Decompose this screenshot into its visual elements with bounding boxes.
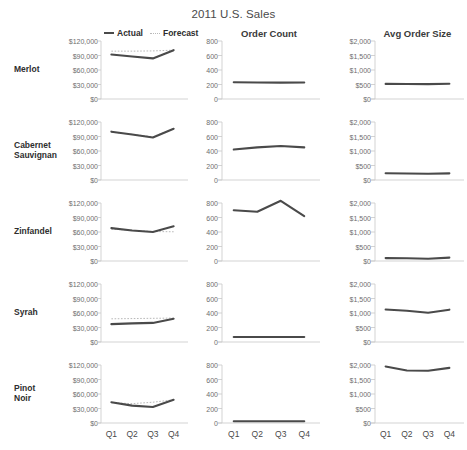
y-tick-label: 200 (196, 162, 218, 169)
x-tick-label: Q4 (162, 429, 186, 439)
y-tick-label: $1,500 (331, 295, 371, 302)
y-tick-label: $0 (46, 420, 98, 427)
x-tick-label: Q4 (437, 429, 461, 439)
x-tick-label: Q3 (269, 429, 293, 439)
y-tick-label: 600 (196, 52, 218, 59)
y-tick-label: $0 (331, 177, 371, 184)
y-tick-label: $30,000 (46, 243, 98, 250)
y-tick-label: $0 (331, 258, 371, 265)
column-title-order-count: Order Count (222, 28, 316, 39)
y-tick-label: $1,000 (331, 148, 371, 155)
legend-line-actual-icon (104, 32, 114, 34)
x-tick-label: Q4 (292, 429, 316, 439)
x-tick-label: Q1 (222, 429, 246, 439)
y-tick-label: $90,000 (46, 295, 98, 302)
y-tick-label: 800 (196, 362, 218, 369)
y-tick-label: $120,000 (46, 38, 98, 45)
y-tick-label: $500 (331, 405, 371, 412)
y-tick-label: $1,500 (331, 133, 371, 140)
chart-legend: Actual Forecast (104, 28, 198, 38)
legend-item-forecast: Forecast (150, 28, 198, 38)
y-tick-label: $2,000 (331, 38, 371, 45)
legend-label-forecast: Forecast (163, 28, 198, 38)
y-tick-label: $1,500 (331, 52, 371, 59)
legend-line-forecast-icon (150, 33, 160, 34)
y-tick-label: $500 (331, 81, 371, 88)
y-tick-label: $1,000 (331, 67, 371, 74)
legend-item-actual: Actual (104, 28, 143, 38)
y-tick-label: 200 (196, 405, 218, 412)
y-tick-label: $120,000 (46, 200, 98, 207)
y-tick-label: $90,000 (46, 214, 98, 221)
y-tick-label: $0 (46, 258, 98, 265)
y-tick-label: 200 (196, 81, 218, 88)
y-tick-label: $90,000 (46, 376, 98, 383)
y-tick-label: $1,000 (331, 310, 371, 317)
y-tick-label: $500 (331, 162, 371, 169)
y-tick-label: $90,000 (46, 52, 98, 59)
y-tick-label: $120,000 (46, 362, 98, 369)
y-tick-label: $120,000 (46, 281, 98, 288)
y-tick-label: 600 (196, 295, 218, 302)
y-tick-label: 800 (196, 200, 218, 207)
y-tick-label: $2,000 (331, 119, 371, 126)
y-tick-label: 200 (196, 324, 218, 331)
y-tick-label: $2,000 (331, 362, 371, 369)
y-tick-label: $1,000 (331, 229, 371, 236)
y-tick-label: 400 (196, 310, 218, 317)
y-tick-label: $90,000 (46, 133, 98, 140)
y-tick-label: 600 (196, 376, 218, 383)
y-tick-label: $60,000 (46, 310, 98, 317)
y-tick-label: $0 (46, 339, 98, 346)
y-tick-label: $0 (46, 96, 98, 103)
y-tick-label: 800 (196, 119, 218, 126)
y-tick-label: $30,000 (46, 81, 98, 88)
y-tick-label: $1,000 (331, 391, 371, 398)
y-tick-label: $60,000 (46, 67, 98, 74)
row-label-merlot: Merlot (14, 64, 40, 74)
y-tick-label: $2,000 (331, 281, 371, 288)
y-tick-label: $1,500 (331, 214, 371, 221)
y-tick-label: $500 (331, 324, 371, 331)
y-tick-label: 600 (196, 133, 218, 140)
y-tick-label: $0 (46, 177, 98, 184)
y-tick-label: $1,500 (331, 376, 371, 383)
y-tick-label: 400 (196, 67, 218, 74)
y-tick-label: 400 (196, 148, 218, 155)
y-tick-label: 0 (196, 96, 218, 103)
y-tick-label: 400 (196, 391, 218, 398)
y-tick-label: 200 (196, 243, 218, 250)
y-tick-label: 800 (196, 281, 218, 288)
y-tick-label: $30,000 (46, 405, 98, 412)
column-title-avg-order-size: Avg Order Size (375, 28, 460, 39)
page-title: 2011 U.S. Sales (0, 8, 467, 20)
y-tick-label: 0 (196, 258, 218, 265)
y-tick-label: $120,000 (46, 119, 98, 126)
y-tick-label: 0 (196, 339, 218, 346)
y-tick-label: $30,000 (46, 162, 98, 169)
chart-root: 2011 U.S. Sales Actual Forecast Order Co… (0, 0, 467, 450)
y-tick-label: $0 (331, 420, 371, 427)
row-label-pinot_noir: Pinot Noir (14, 383, 35, 403)
legend-label-actual: Actual (117, 28, 143, 38)
row-label-syrah: Syrah (14, 307, 38, 317)
y-tick-label: $60,000 (46, 391, 98, 398)
y-tick-label: $2,000 (331, 200, 371, 207)
y-tick-label: $0 (331, 339, 371, 346)
y-tick-label: $500 (331, 243, 371, 250)
y-tick-label: $60,000 (46, 148, 98, 155)
y-tick-label: 800 (196, 38, 218, 45)
y-tick-label: 0 (196, 420, 218, 427)
y-tick-label: $0 (331, 96, 371, 103)
y-tick-label: $30,000 (46, 324, 98, 331)
x-tick-label: Q2 (245, 429, 269, 439)
y-tick-label: 600 (196, 214, 218, 221)
y-tick-label: 0 (196, 177, 218, 184)
y-tick-label: 400 (196, 229, 218, 236)
y-tick-label: $60,000 (46, 229, 98, 236)
